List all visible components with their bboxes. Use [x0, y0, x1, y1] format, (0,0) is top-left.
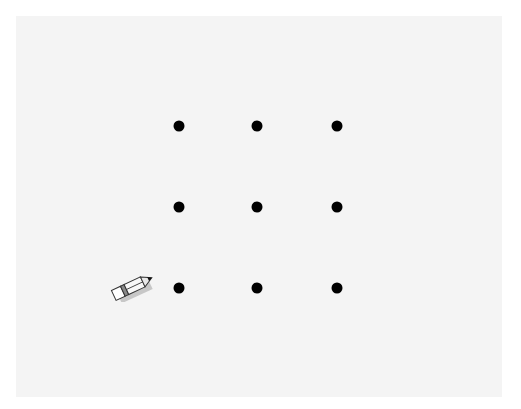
dot-r1-c3[interactable] — [332, 121, 343, 132]
dot-r2-c2[interactable] — [252, 202, 263, 213]
dot-r2-c1[interactable] — [174, 202, 185, 213]
pencil-icon[interactable] — [108, 272, 158, 302]
dot-r1-c1[interactable] — [174, 121, 185, 132]
dot-r2-c3[interactable] — [332, 202, 343, 213]
dot-r1-c2[interactable] — [252, 121, 263, 132]
dot-r3-c1[interactable] — [174, 283, 185, 294]
dot-r3-c2[interactable] — [252, 283, 263, 294]
dot-r3-c3[interactable] — [332, 283, 343, 294]
